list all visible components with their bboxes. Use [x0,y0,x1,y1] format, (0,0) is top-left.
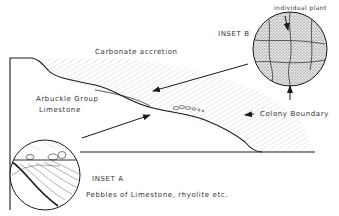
arrow-inset-a-to-pebbles [82,115,150,138]
inset-a-circle [10,138,84,210]
label-limestone: Limestone [39,107,81,114]
label-carbonate-accretion: Carbonate accretion [95,49,178,56]
label-inset-b: INSET B [218,31,250,38]
label-inset-a: INSET A [92,176,124,183]
label-pebbles: Pebbles of Limestone, rhyolite etc. [86,192,228,199]
label-colony-boundary: Colony Boundary [260,111,329,118]
label-arbuckle-group: Arbuckle Group [36,96,99,103]
label-individual-plant: individual plant [274,5,327,11]
inset-b-circle [253,12,327,92]
